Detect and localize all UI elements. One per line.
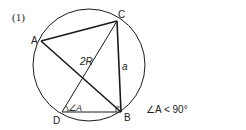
segment-AC bbox=[41, 21, 117, 41]
inscribed-angle-diagram: (1) A C D B 2R a ∠A ∠A < 90° bbox=[0, 0, 246, 130]
point-label-A: A bbox=[31, 35, 38, 46]
side-a-label: a bbox=[122, 61, 128, 72]
point-label-B: B bbox=[124, 112, 131, 123]
segment-CB bbox=[117, 21, 121, 112]
figure-number: (1) bbox=[12, 11, 25, 24]
segment-AB bbox=[41, 41, 121, 112]
diameter-label: 2R bbox=[79, 56, 93, 67]
point-label-D: D bbox=[53, 115, 60, 126]
point-label-C: C bbox=[118, 9, 125, 20]
angle-label-D: ∠A bbox=[68, 103, 82, 113]
condition-label: ∠A < 90° bbox=[146, 104, 188, 115]
